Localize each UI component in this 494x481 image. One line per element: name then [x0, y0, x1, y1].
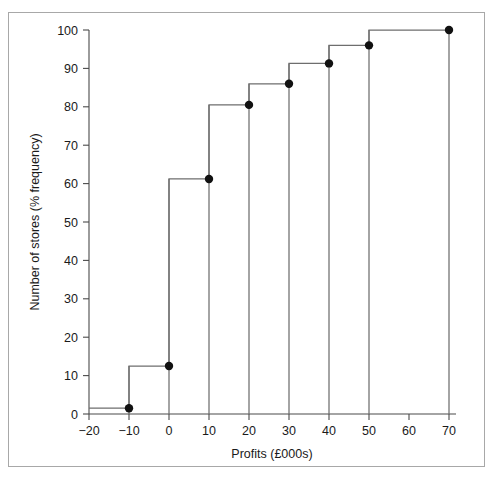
- x-tick-label--10: −10: [118, 424, 139, 438]
- y-axis: 100 90 80 70 60 50 40 30 20 10 0 Number …: [28, 24, 89, 422]
- y-axis-title: Number of stores (% frequency): [28, 133, 42, 310]
- data-point-marker: [165, 362, 173, 370]
- x-tick-label-60: 60: [402, 424, 416, 438]
- y-tick-label-40: 40: [64, 254, 78, 268]
- y-tick-label-60: 60: [64, 177, 78, 191]
- x-tick-label-70: 70: [442, 424, 456, 438]
- cumulative-frequency-chart: 100 90 80 70 60 50 40 30 20 10 0 Number …: [9, 13, 484, 466]
- y-tick-label-0: 0: [71, 408, 78, 422]
- x-tick-label--20: −20: [78, 424, 99, 438]
- y-tick-label-50: 50: [64, 216, 78, 230]
- y-tick-label-90: 90: [64, 62, 78, 76]
- data-point-marker: [125, 404, 133, 412]
- y-tick-label-30: 30: [64, 292, 78, 306]
- y-tick-label-80: 80: [64, 100, 78, 114]
- x-tick-label-30: 30: [282, 424, 296, 438]
- x-tick-label-40: 40: [322, 424, 336, 438]
- x-tick-label-50: 50: [362, 424, 376, 438]
- data-point-marker: [245, 101, 253, 109]
- y-tick-label-70: 70: [64, 139, 78, 153]
- data-point-marker: [205, 175, 213, 183]
- y-tick-label-20: 20: [64, 331, 78, 345]
- x-tick-label-10: 10: [202, 424, 216, 438]
- cumulative-step-line: [89, 30, 449, 408]
- figure-frame: 100 90 80 70 60 50 40 30 20 10 0 Number …: [8, 12, 485, 467]
- x-tick-label-20: 20: [242, 424, 256, 438]
- data-point-marker: [445, 26, 453, 34]
- data-point-marker: [365, 41, 373, 49]
- x-axis-title: Profits (£000s): [231, 447, 312, 461]
- y-tick-label-10: 10: [64, 369, 78, 383]
- x-tick-label-0: 0: [166, 424, 173, 438]
- x-axis: −20 −10 0 10 20 30 40 50 60 70 Profits (…: [78, 414, 456, 461]
- chart-page: 100 90 80 70 60 50 40 30 20 10 0 Number …: [0, 0, 494, 481]
- y-tick-label-100: 100: [57, 24, 78, 38]
- data-point-marker: [285, 80, 293, 88]
- data-point-marker: [325, 59, 333, 67]
